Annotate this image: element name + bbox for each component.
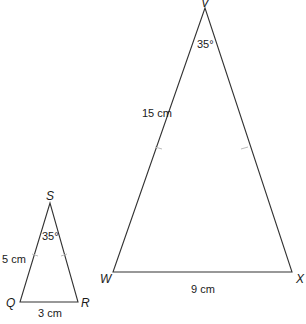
vertex-label-x: X	[295, 272, 305, 286]
large-triangle: V W X 35° 15 cm 9 cm	[100, 0, 305, 295]
similar-triangles-diagram: S Q R 35° 5 cm 3 cm V W X 35° 15 cm 9 cm	[0, 0, 306, 324]
large-apex-angle-label: 35°	[197, 38, 214, 50]
vertex-label-v: V	[201, 0, 210, 10]
vertex-label-q: Q	[6, 296, 15, 310]
large-side-length-label: 15 cm	[142, 107, 172, 119]
small-triangle-outline	[20, 203, 78, 302]
small-apex-angle-label: 35°	[42, 230, 59, 242]
small-side-length-label: 5 cm	[2, 253, 26, 265]
small-base-length-label: 3 cm	[38, 307, 62, 319]
vertex-label-s: S	[46, 189, 54, 203]
large-base-length-label: 9 cm	[191, 283, 215, 295]
vertex-label-w: W	[100, 272, 113, 286]
small-triangle: S Q R 35° 5 cm 3 cm	[2, 189, 90, 319]
vertex-label-r: R	[81, 296, 90, 310]
large-triangle-right-tick	[241, 147, 248, 149]
